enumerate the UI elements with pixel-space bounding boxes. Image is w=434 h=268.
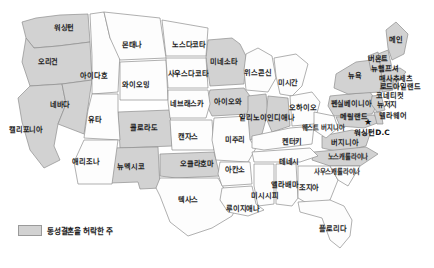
state-label[interactable]: 오하이오 [289, 104, 316, 112]
state-label[interactable]: 버지니아 [331, 139, 358, 147]
state-label[interactable]: 미네소타 [210, 58, 237, 66]
state-label[interactable]: 네브래스카 [170, 100, 204, 108]
state-label[interactable]: 테네시 [279, 158, 299, 166]
state-label[interactable]: 미시시피 [251, 192, 278, 200]
state-label[interactable]: 앨라배마 [271, 181, 298, 189]
state-label[interactable]: 아칸소 [225, 166, 245, 174]
state-label[interactable]: 로드아일랜드 [380, 83, 421, 91]
state-label[interactable]: 오클라호마 [180, 160, 214, 168]
state-label[interactable]: 뉴멕시코 [117, 163, 144, 171]
state-label[interactable]: 사우스캐롤라이나 [314, 169, 360, 176]
us-states-map: 워싱턴오리건캘리포니아네바다아이다호몬태나와이오밍유타콜로라도애리조나뉴멕시코노… [0, 0, 434, 268]
state-label[interactable]: 유타 [88, 116, 102, 124]
state-label[interactable]: 켄터키 [282, 138, 302, 146]
state-shape-michigan[interactable] [274, 54, 308, 96]
state-label[interactable]: 일리노이 [239, 114, 266, 122]
capital-label[interactable]: 워싱턴D.C [354, 126, 389, 137]
state-label[interactable]: 코네티컷 [376, 92, 403, 100]
legend: 동성결혼을 허락한 주 [18, 225, 113, 236]
state-label[interactable]: 캔자스 [178, 133, 198, 141]
state-label[interactable]: 위스콘신 [244, 69, 271, 77]
state-label[interactable]: 워싱턴 [54, 24, 74, 32]
state-label[interactable]: 펜실베이니아 [331, 100, 372, 108]
legend-label: 동성결혼을 허락한 주 [47, 225, 113, 236]
state-label[interactable]: 노스캐롤라이나 [328, 154, 369, 161]
state-label[interactable]: 델라웨어 [379, 112, 406, 120]
state-label[interactable]: 뉴욕 [348, 72, 362, 80]
state-label[interactable]: 버몬트 [368, 55, 388, 63]
state-label[interactable]: 조지아 [299, 184, 319, 192]
state-label[interactable]: 사우스다코타 [168, 70, 209, 78]
state-label[interactable]: 텍사스 [178, 196, 198, 204]
state-label[interactable]: 오리건 [38, 58, 58, 66]
state-label[interactable]: 아이다호 [80, 72, 107, 80]
state-label[interactable]: 뉴저지 [377, 101, 397, 109]
state-label[interactable]: 뉴햄프셔 [371, 65, 398, 73]
state-label[interactable]: 루이지애나 [226, 205, 260, 213]
state-label[interactable]: 노스다코타 [172, 41, 206, 49]
state-label[interactable]: 플로리다 [319, 225, 346, 233]
state-label[interactable]: 네바다 [50, 101, 70, 109]
state-label[interactable]: 몬태나 [122, 41, 142, 49]
state-label[interactable]: 매사추세츠 [379, 75, 413, 83]
state-label[interactable]: 애리조나 [72, 158, 99, 166]
state-label[interactable]: 인디애나 [267, 114, 294, 122]
state-label[interactable]: 아이오와 [214, 98, 241, 106]
state-label[interactable]: 미시간 [278, 79, 298, 87]
state-label[interactable]: 메인 [389, 36, 403, 44]
legend-swatch [18, 225, 42, 236]
state-label[interactable]: 캘리포니아 [9, 126, 43, 134]
state-label[interactable]: 와이오밍 [122, 81, 149, 89]
state-shape-north-dakota[interactable] [162, 20, 208, 56]
state-label[interactable]: 웨스트 버지니아 [302, 125, 345, 132]
state-label[interactable]: 콜로라도 [130, 124, 157, 132]
state-label[interactable]: 미주리 [225, 136, 245, 144]
